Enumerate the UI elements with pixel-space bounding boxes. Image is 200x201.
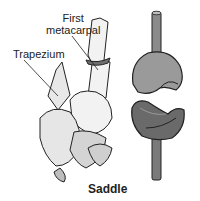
label-first-metacarpal-line2: metacarpal: [46, 24, 100, 36]
hand-bones-illustration: [40, 18, 112, 182]
label-first-metacarpal: First metacarpal: [46, 12, 100, 36]
radius-tip: [54, 168, 65, 182]
upper-saddle-model: [133, 11, 183, 93]
leader-line-trapezium: [24, 60, 58, 96]
label-trapezium: Trapezium: [13, 48, 65, 60]
metacarpal-2-bone: [48, 62, 70, 110]
saddle-joint-diagram: First metacarpal Trapezium Saddle: [0, 0, 200, 201]
label-first-metacarpal-line1: First: [46, 12, 100, 24]
diagram-caption: Saddle: [88, 182, 127, 196]
lower-saddle-model: [132, 101, 185, 180]
